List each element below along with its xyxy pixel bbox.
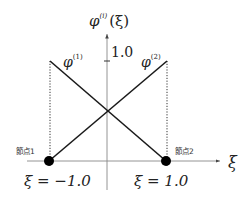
- x-axis-label: ξ: [228, 153, 238, 172]
- node-2-label: 節点2: [175, 146, 194, 156]
- node-2-xi-label: ξ = 1.0: [134, 172, 189, 190]
- node-1-label: 節点1: [16, 146, 35, 156]
- node-1: [44, 156, 54, 166]
- shape-function-diagram: φ(i)(ξ) 1.0 φ(1) φ(2) 節点1 節点2 ξ = −1.0 ξ…: [0, 0, 247, 201]
- y-tick-label: 1.0: [111, 44, 133, 60]
- node-2: [161, 156, 171, 166]
- phi2-label: φ(2): [141, 53, 161, 70]
- y-axis-label: φ(i)(ξ): [89, 12, 129, 30]
- node-1-xi-label: ξ = −1.0: [24, 172, 91, 190]
- phi1-label: φ(1): [63, 53, 83, 70]
